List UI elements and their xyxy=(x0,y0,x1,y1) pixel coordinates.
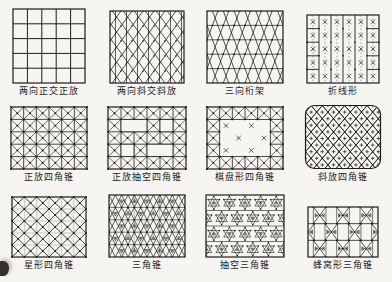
checkerboard-pyramid-drawing xyxy=(205,105,285,171)
diagram-triangular-pyramid-hollow: 抽空三角锥 xyxy=(196,188,294,282)
diagram-triangular-pyramid: 三角锥 xyxy=(98,188,196,282)
diagram-label: 正放抽空四角锥 xyxy=(112,173,182,182)
figure-sheet: 两向正交正放两向斜交斜放三向桁架折线形正放四角锥正放抽空四角锥棋盘形四角锥斜放四… xyxy=(0,0,392,282)
honeycomb-pyramid-drawing xyxy=(306,205,380,259)
diagram-label: 斜放四角锥 xyxy=(318,173,368,182)
diagram-honeycomb-pyramid: 蜂窝形三角锥 xyxy=(294,188,392,282)
diagram-fold-line: 折线形 xyxy=(294,0,392,100)
diagram-diagonal-pyramid: 斜放四角锥 xyxy=(294,100,392,188)
diagonal-lattice-drawing xyxy=(108,9,186,85)
diagram-label: 两向正交正放 xyxy=(19,87,79,96)
diagram-label: 抽空三角锥 xyxy=(220,261,270,270)
diagram-label: 折线形 xyxy=(328,87,358,96)
diagram-square-pyramid: 正放四角锥 xyxy=(0,100,98,188)
orthogonal-grid-drawing xyxy=(11,7,87,85)
star-pyramid-drawing xyxy=(10,195,88,259)
diagram-square-pyramid-hollow: 正放抽空四角锥 xyxy=(98,100,196,188)
diagram-label: 正放四角锥 xyxy=(24,173,74,182)
diagram-label: 三向桁架 xyxy=(225,87,265,96)
diagram-orthogonal-grid: 两向正交正放 xyxy=(0,0,98,100)
diagram-label: 蜂窝形三角锥 xyxy=(313,261,373,270)
triangular-pyramid-hollow-drawing xyxy=(204,193,286,259)
diagram-checkerboard-pyramid: 棋盘形四角锥 xyxy=(196,100,294,188)
diagram-three-way-truss: 三向桁架 xyxy=(196,0,294,100)
diagram-label: 三角锥 xyxy=(132,261,162,270)
diagram-label: 棋盘形四角锥 xyxy=(215,173,275,182)
square-pyramid-hollow-drawing xyxy=(106,105,188,171)
diagonal-pyramid-drawing xyxy=(303,103,383,171)
triangular-pyramid-drawing xyxy=(107,193,187,259)
fold-line-drawing xyxy=(305,13,381,85)
diagram-grid: 两向正交正放两向斜交斜放三向桁架折线形正放四角锥正放抽空四角锥棋盘形四角锥斜放四… xyxy=(0,0,392,282)
square-pyramid-drawing xyxy=(9,105,89,171)
diagram-star-pyramid: 星形四角锥 xyxy=(0,188,98,282)
diagram-diagonal-lattice: 两向斜交斜放 xyxy=(98,0,196,100)
diagram-label: 两向斜交斜放 xyxy=(117,87,177,96)
three-way-truss-drawing xyxy=(205,9,285,85)
diagram-label: 星形四角锥 xyxy=(24,261,74,270)
